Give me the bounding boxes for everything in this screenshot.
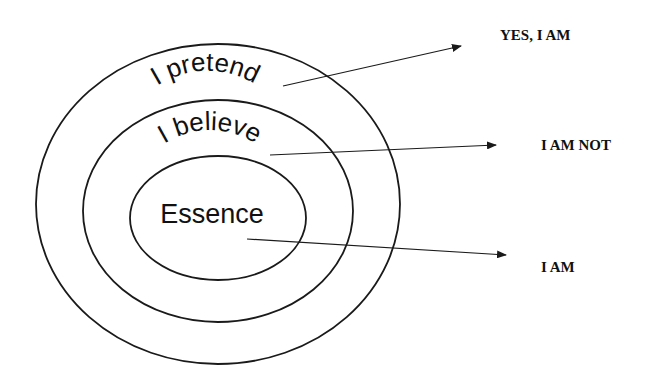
label-essence: Essence [160,199,264,229]
outcome-i-am: I AM [541,259,575,275]
self-layers-diagram: I pretend I believe Essence YES, I AM I … [0,0,657,386]
arrow-believe [270,145,496,155]
label-i-believe: I believe [152,106,266,149]
outcome-i-am-not: I AM NOT [541,137,611,153]
outcome-yes-i-am: YES, I AM [500,27,570,43]
label-i-pretend: I pretend [145,47,265,92]
arrow-essence [247,239,506,255]
